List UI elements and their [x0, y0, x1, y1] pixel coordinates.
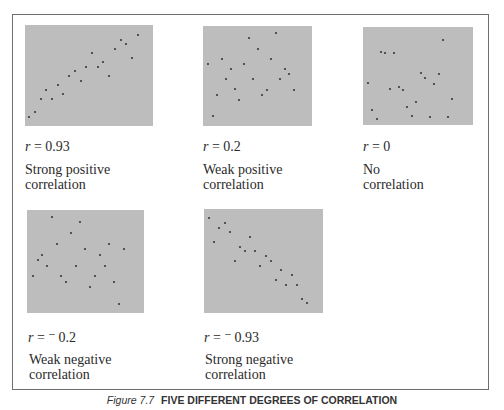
data-point [380, 51, 382, 53]
correlation-description: Strong negative correlation [205, 352, 293, 382]
data-point [70, 232, 72, 234]
data-point [80, 80, 82, 82]
data-point [393, 52, 395, 54]
data-point [229, 231, 231, 233]
data-point [32, 275, 34, 277]
data-point [275, 32, 277, 34]
data-point [84, 248, 86, 250]
r-value: 0.2 [223, 139, 241, 154]
data-point [447, 116, 449, 118]
data-point [225, 78, 227, 80]
data-point [406, 106, 408, 108]
data-point [75, 265, 77, 267]
data-point [118, 303, 120, 305]
data-point [79, 221, 81, 223]
data-point [65, 281, 67, 283]
data-point [293, 89, 295, 91]
data-point [270, 260, 272, 262]
correlation-description: Weak positive correlation [203, 162, 282, 192]
data-point [239, 246, 241, 248]
data-point [68, 75, 70, 77]
r-value: 0.93 [45, 139, 70, 154]
data-point [57, 84, 59, 86]
data-point [420, 72, 422, 74]
data-point [99, 254, 101, 256]
data-point [230, 68, 232, 70]
data-point [34, 111, 36, 113]
data-point [243, 63, 245, 65]
data-point [85, 66, 87, 68]
data-point [234, 88, 236, 90]
data-point [234, 260, 236, 262]
scatter-points [204, 209, 323, 313]
data-point [60, 275, 62, 277]
data-point [131, 57, 133, 59]
data-point [224, 222, 226, 224]
data-point [62, 93, 64, 95]
figure-number: Figure 7.7 [107, 394, 154, 406]
data-point [288, 73, 290, 75]
data-point [275, 279, 277, 281]
data-point [248, 37, 250, 39]
data-point [279, 78, 281, 80]
data-point [212, 115, 214, 117]
data-point [270, 58, 272, 60]
r-value-label: r = ⁻ 0.2 [28, 329, 76, 346]
figure-title: FIVE DIFFERENT DEGREES OF CORRELATION [161, 394, 397, 406]
data-point [113, 281, 115, 283]
data-point [74, 70, 76, 72]
data-point [41, 254, 43, 256]
r-value-label: r = 0.2 [203, 139, 241, 155]
scatter-points [27, 210, 144, 313]
scatter-plot-no-correlation [363, 27, 473, 125]
data-point [257, 48, 259, 50]
data-point [265, 255, 267, 257]
data-point [218, 227, 220, 229]
figure-caption: Figure 7.7 FIVE DIFFERENT DEGREES OF COR… [0, 394, 504, 406]
data-point [108, 75, 110, 77]
scatter-plot-weak-negative [27, 210, 144, 313]
scatter-plot-strong-positive [25, 25, 153, 126]
data-point [415, 101, 417, 103]
data-point [371, 109, 373, 111]
data-point [402, 89, 404, 91]
r-value-label: r = 0.93 [25, 139, 70, 155]
scatter-points [363, 27, 473, 125]
scatter-plot-weak-positive [203, 26, 312, 126]
data-point [120, 39, 122, 41]
data-point [259, 265, 261, 267]
data-point [102, 61, 104, 63]
data-point [89, 286, 91, 288]
data-point [384, 52, 386, 54]
data-point [40, 98, 42, 100]
data-point [296, 284, 298, 286]
data-point [51, 216, 53, 218]
correlation-description: Weak negative correlation [29, 352, 111, 382]
data-point [398, 86, 400, 88]
data-point [411, 115, 413, 117]
data-point [46, 265, 48, 267]
r-value-label: r = ⁻ 0.93 [204, 329, 259, 346]
data-point [207, 63, 209, 65]
data-point [438, 73, 440, 75]
r-value: ⁻ 0.2 [48, 330, 76, 345]
data-point [216, 94, 218, 96]
data-point [56, 243, 58, 245]
data-point [367, 82, 369, 84]
data-point [284, 68, 286, 70]
data-point [285, 284, 287, 286]
data-point [28, 116, 30, 118]
data-point [244, 250, 246, 252]
scatter-points [203, 26, 312, 126]
data-point [221, 58, 223, 60]
data-point [254, 250, 256, 252]
data-point [261, 94, 263, 96]
data-point [442, 39, 444, 41]
data-point [306, 302, 308, 304]
data-point [376, 118, 378, 120]
data-point [114, 48, 116, 50]
data-point [266, 89, 268, 91]
data-point [433, 83, 435, 85]
data-point [125, 43, 127, 45]
data-point [37, 259, 39, 261]
